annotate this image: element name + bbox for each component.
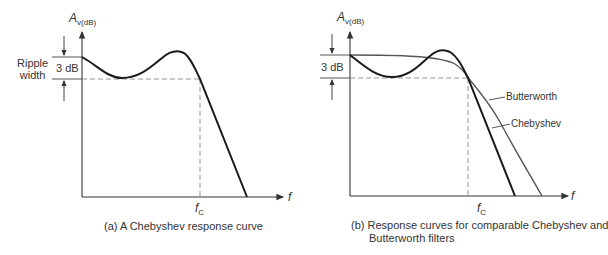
x-axis-label: f [571,190,574,202]
x-axis-label: f [288,191,291,203]
ripple-label-line1: Ripple [17,57,48,69]
db-label: 3 dB [321,61,344,73]
y-axis-label-sub: v(dB) [77,18,96,27]
caption-b-line1: (b) Response curves for comparable Cheby… [351,219,608,232]
fc-label-sub: C [480,208,486,217]
caption-a: (a) A Chebyshev response curve [104,220,263,233]
fc-label: fC [477,202,486,219]
panel-b [320,32,568,196]
ripple-width-label: Ripple width [17,57,48,81]
y-axis-label: Av(dB) [69,12,96,29]
y-axis-label-sub: v(dB) [345,17,364,26]
y-axis-label-main: A [337,10,345,24]
y-axis-label: Av(dB) [337,11,364,28]
fc-label-sub: C [198,208,204,217]
butterworth-label: Butterworth [506,91,557,103]
chebyshev-curve [350,50,515,196]
y-axis-label-main: A [69,11,77,25]
chebyshev-label: Chebyshev [511,118,561,130]
ripple-label-line2: width [17,69,48,81]
caption-b: (b) Response curves for comparable Cheby… [351,219,608,245]
caption-b-line2: Butterworth filters [351,232,608,245]
butterworth-leader-line [489,97,505,100]
chebyshev-curve [82,51,247,197]
fc-label: fC [195,202,204,219]
panel-a [52,32,283,197]
db-label: 3 dB [56,62,79,74]
